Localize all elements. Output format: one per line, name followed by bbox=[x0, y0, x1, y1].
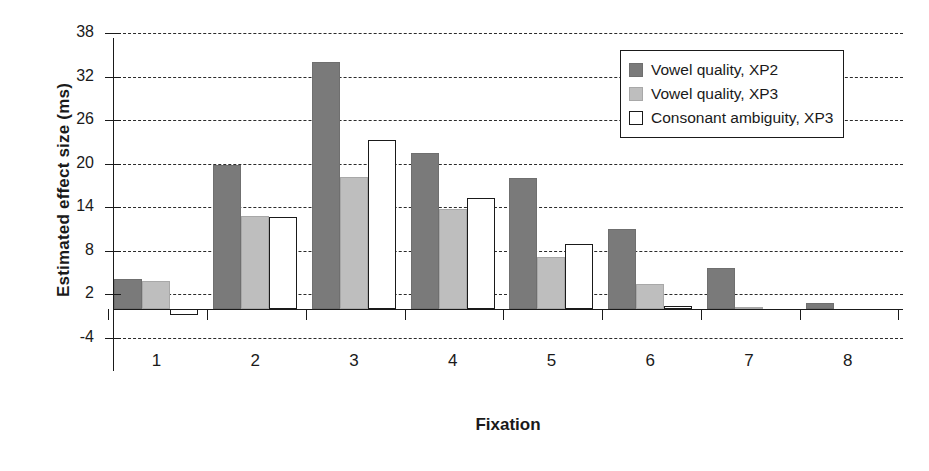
bar-group-3-series-0 bbox=[312, 62, 340, 309]
legend-label-1: Vowel quality, XP3 bbox=[651, 85, 778, 103]
y-tick-20 bbox=[105, 164, 121, 165]
legend-item-1: Vowel quality, XP3 bbox=[629, 82, 833, 106]
legend-label-0: Vowel quality, XP2 bbox=[651, 61, 778, 79]
x-tick-label-5: 5 bbox=[531, 351, 571, 371]
x-tick-7 bbox=[701, 309, 702, 320]
bar-group-3-series-1 bbox=[340, 177, 368, 309]
dark-gray-swatch-icon bbox=[629, 63, 643, 77]
x-tick-4 bbox=[405, 309, 406, 320]
bar-group-5-series-1 bbox=[537, 257, 565, 309]
y-tick-label-14: 14 bbox=[58, 197, 94, 215]
x-axis-line bbox=[113, 309, 903, 310]
x-tick-8 bbox=[800, 309, 801, 320]
bar-group-7-series-0 bbox=[707, 268, 735, 309]
x-tick-label-6: 6 bbox=[630, 351, 670, 371]
y-tick-label--4: -4 bbox=[58, 328, 94, 346]
bar-group-2-series-1 bbox=[241, 216, 269, 309]
bar-group-4-series-0 bbox=[411, 153, 439, 309]
legend-label-2: Consonant ambiguity, XP3 bbox=[651, 109, 833, 127]
light-gray-swatch-icon bbox=[629, 87, 643, 101]
bar-group-6-series-1 bbox=[636, 284, 664, 309]
gridline--4 bbox=[113, 338, 903, 339]
bar-group-4-series-1 bbox=[439, 209, 467, 308]
x-tick-6 bbox=[602, 309, 603, 320]
y-tick-26 bbox=[105, 120, 121, 121]
y-tick-label-20: 20 bbox=[58, 154, 94, 172]
x-tick-5 bbox=[503, 309, 504, 320]
bar-group-2-series-0 bbox=[213, 165, 241, 309]
bar-group-3-series-2 bbox=[368, 140, 396, 308]
y-tick-label-26: 26 bbox=[58, 110, 94, 128]
y-tick-8 bbox=[105, 251, 121, 252]
y-tick--4 bbox=[105, 338, 121, 339]
bar-group-5-series-0 bbox=[509, 178, 537, 309]
legend-item-2: Consonant ambiguity, XP3 bbox=[629, 106, 833, 130]
white-outline-swatch-icon bbox=[629, 111, 643, 125]
bar-group-2-series-2 bbox=[269, 217, 297, 309]
y-tick-2 bbox=[105, 294, 121, 295]
y-tick-label-38: 38 bbox=[58, 23, 94, 41]
y-tick-38 bbox=[105, 33, 121, 34]
legend: Vowel quality, XP2 Vowel quality, XP3 Co… bbox=[620, 50, 844, 138]
x-tick-label-8: 8 bbox=[828, 351, 868, 371]
legend-item-0: Vowel quality, XP2 bbox=[629, 58, 833, 82]
bar-group-4-series-2 bbox=[467, 198, 495, 309]
bar-chart: Estimated effect size (ms) -428142026323… bbox=[0, 0, 929, 471]
bar-group-5-series-2 bbox=[565, 244, 593, 309]
x-tick-label-7: 7 bbox=[729, 351, 769, 371]
bar-group-6-series-0 bbox=[608, 229, 636, 309]
x-tick-label-3: 3 bbox=[334, 351, 374, 371]
x-tick-end bbox=[898, 309, 899, 320]
x-axis-title: Fixation bbox=[113, 415, 903, 435]
x-tick-2 bbox=[207, 309, 208, 320]
y-tick-32 bbox=[105, 77, 121, 78]
y-tick-label-32: 32 bbox=[58, 67, 94, 85]
y-axis-line bbox=[113, 38, 114, 371]
x-tick-label-4: 4 bbox=[433, 351, 473, 371]
y-tick-label-2: 2 bbox=[58, 284, 94, 302]
x-tick-1 bbox=[108, 309, 109, 320]
x-tick-3 bbox=[306, 309, 307, 320]
y-tick-14 bbox=[105, 207, 121, 208]
x-tick-label-2: 2 bbox=[235, 351, 275, 371]
bar-group-1-series-1 bbox=[142, 281, 170, 309]
x-tick-label-1: 1 bbox=[136, 351, 176, 371]
y-tick-label-8: 8 bbox=[58, 241, 94, 259]
